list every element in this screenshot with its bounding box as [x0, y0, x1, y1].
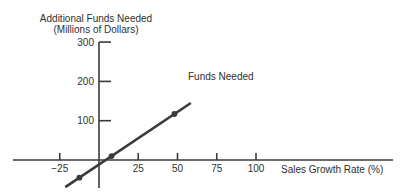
afn-sales-growth-chart: Additional Funds Needed (Millions of Dol… [0, 0, 402, 195]
y-tick-label: 100 [62, 115, 94, 126]
chart-title: Additional Funds Needed [25, 13, 167, 24]
data-point-dot [109, 153, 115, 159]
x-tick-label: 100 [248, 163, 265, 174]
y-tick-label: 200 [62, 76, 94, 87]
x-tick-label: 25 [133, 163, 144, 174]
x-tick-label: 75 [211, 163, 222, 174]
x-tick-label: 50 [172, 163, 183, 174]
chart-title-units: (Millions of Dollars) [25, 24, 167, 35]
x-axis-label: Sales Growth Rate (%) [281, 164, 383, 175]
data-point-dot [76, 175, 82, 181]
y-tick-label: 300 [62, 37, 94, 48]
series-label-funds-needed: Funds Needed [188, 71, 254, 82]
data-point-dot [171, 111, 177, 117]
x-tick-label: −25 [51, 163, 68, 174]
